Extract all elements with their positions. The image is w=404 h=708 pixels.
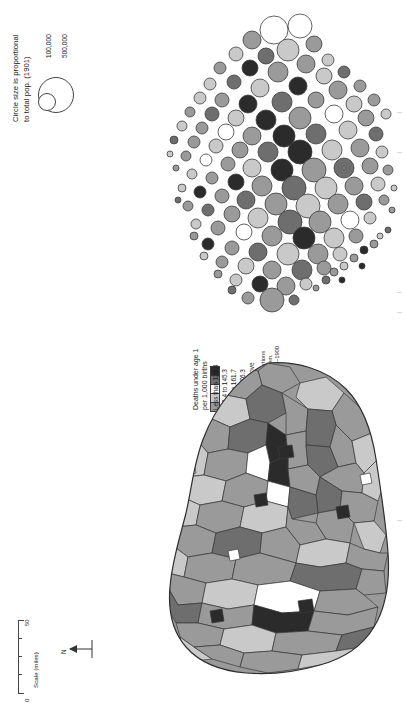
scale-bar-line — [18, 620, 19, 694]
page-edge-tick — [397, 292, 402, 293]
scale-tick-3 — [18, 674, 22, 675]
choropleth-map-svg — [150, 355, 404, 708]
north-arrow: N — [58, 636, 98, 666]
scale-tick-2 — [18, 656, 22, 657]
page-edge-tick — [397, 152, 402, 153]
infant-mortality-choropleth-map — [150, 355, 404, 708]
scale-bar: 50 0 Scale (miles) — [4, 612, 44, 708]
choropleth-districts — [150, 355, 404, 708]
population-proportional-circle-map — [148, 10, 404, 340]
scale-caption: Scale (miles) — [32, 652, 39, 688]
page-edge-tick — [397, 520, 402, 521]
population-legend-label-500000: 500,000 — [61, 34, 68, 58]
population-legend-label-100000: 100,000 — [45, 34, 52, 58]
population-legend-title-line2: to total pop. (1901) — [22, 56, 32, 122]
scale-tick-4 — [18, 693, 24, 694]
population-size-legend: Circle size is proportional to total pop… — [0, 0, 92, 140]
scale-max-label: 50 — [24, 620, 30, 626]
population-legend-title-line1: Circle size is proportional — [11, 34, 21, 122]
north-arrow-label: N — [60, 649, 67, 654]
page-edge-tick — [397, 312, 402, 313]
scale-tick-1 — [18, 638, 22, 639]
scale-min-label: 0 — [24, 699, 30, 702]
circle-symbols — [167, 14, 397, 312]
page-edge-tick — [397, 112, 402, 113]
population-legend-circle-small — [38, 93, 56, 111]
circle-map-svg — [148, 10, 404, 340]
